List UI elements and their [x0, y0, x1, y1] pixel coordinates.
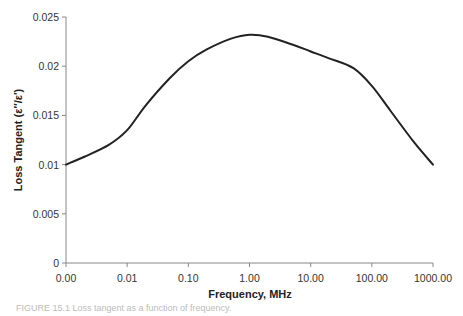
x-tick-label: 0.00 [56, 272, 77, 284]
x-axis-title: Frequency, MHz [208, 288, 292, 300]
y-axis-title: Loss Tangent (ε″/ε′) [12, 88, 24, 191]
x-tick-label: 0.10 [178, 272, 199, 284]
line-chart: 00.0050.010.0150.020.025 0.000.010.101.0… [0, 0, 463, 316]
figure-caption: FIGURE 15.1 Loss tangent as a function o… [16, 303, 231, 313]
x-axis: 0.000.010.101.0010.00100.001000.00 [56, 263, 452, 284]
x-tick-label: 0.01 [117, 272, 138, 284]
x-tick-label: 1000.00 [414, 272, 452, 284]
x-tick-label: 1.00 [239, 272, 260, 284]
y-tick-label: 0 [53, 257, 59, 269]
y-tick-label: 0.025 [33, 11, 59, 23]
y-tick-label: 0.02 [39, 60, 60, 72]
y-axis: 00.0050.010.0150.020.025 [33, 11, 66, 269]
loss-tangent-line [66, 35, 433, 165]
y-tick-label: 0.015 [33, 109, 59, 121]
x-tick-label: 10.00 [298, 272, 324, 284]
y-tick-label: 0.005 [33, 208, 59, 220]
y-tick-label: 0.01 [39, 159, 60, 171]
x-tick-label: 100.00 [356, 272, 388, 284]
